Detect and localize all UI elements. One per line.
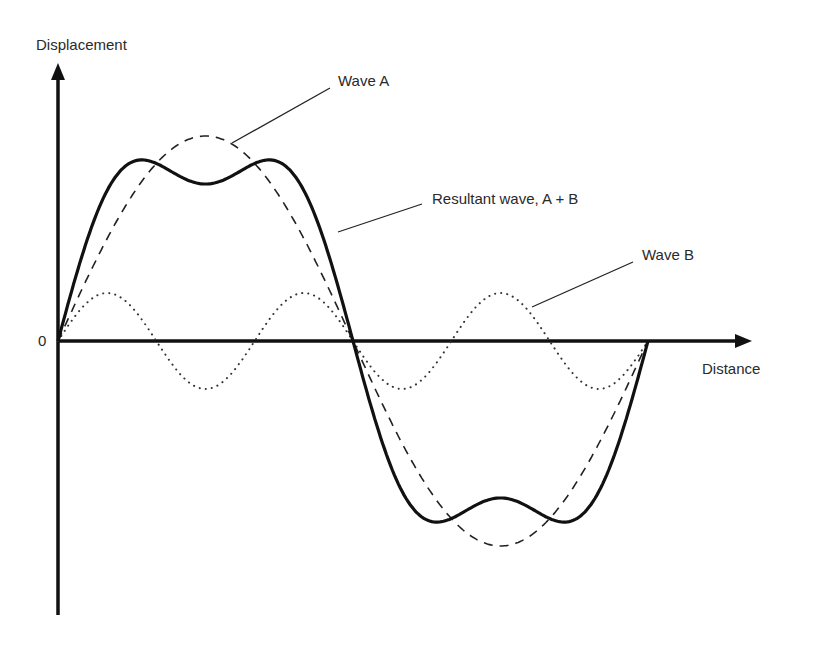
wave-b-label: Wave B	[642, 246, 694, 263]
wave-superposition-diagram	[0, 0, 816, 650]
x-axis-arrowhead-icon	[735, 334, 752, 348]
resultant-leader-line	[338, 204, 422, 232]
resultant-wave-label: Resultant wave, A + B	[432, 190, 578, 207]
wave-a-label: Wave A	[338, 72, 389, 89]
y-axis-arrowhead-icon	[51, 63, 65, 80]
y-axis-label: Displacement	[36, 36, 127, 53]
origin-label: 0	[38, 332, 46, 349]
wave-a-leader-line	[232, 88, 330, 143]
wave-b-leader-line	[532, 262, 633, 307]
x-axis-label: Distance	[702, 360, 760, 377]
